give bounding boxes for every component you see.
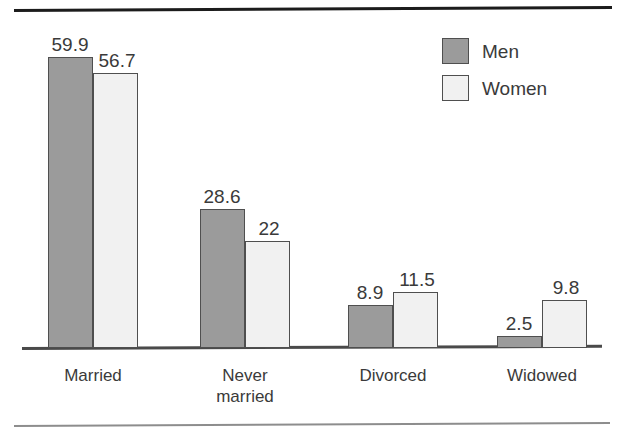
bar-women-never-married[interactable] [245, 241, 290, 348]
value-label-women-never-married: 22 [240, 219, 298, 238]
chart-figure: 59.9 56.7 28.6 22 8.9 11.5 2.5 9.8 Marri… [0, 0, 626, 436]
chart-legend: Men Women [442, 38, 547, 112]
bar-men-married[interactable] [48, 57, 93, 348]
value-label-women-widowed: 9.8 [537, 278, 595, 297]
legend-swatch-women-icon [442, 75, 469, 101]
x-category-label-married: Married [33, 365, 153, 386]
bar-men-never-married[interactable] [200, 209, 245, 348]
bar-women-married[interactable] [93, 73, 138, 348]
x-category-label-never-married: Never married [185, 365, 305, 407]
bar-men-divorced[interactable] [348, 305, 393, 348]
legend-label-women: Women [482, 79, 547, 98]
x-category-label-widowed: Widowed [482, 365, 602, 386]
legend-label-men: Men [482, 42, 519, 61]
legend-item-women[interactable]: Women [442, 75, 547, 101]
value-label-men-widowed: 2.5 [490, 314, 548, 333]
x-category-label-divorced: Divorced [333, 365, 453, 386]
bar-women-divorced[interactable] [393, 292, 438, 348]
value-label-women-divorced: 11.5 [388, 270, 446, 289]
bar-men-widowed[interactable] [497, 336, 542, 348]
value-label-women-married: 56.7 [88, 51, 146, 70]
legend-swatch-men-icon [442, 38, 469, 64]
bar-women-widowed[interactable] [542, 300, 587, 348]
legend-item-men[interactable]: Men [442, 38, 547, 64]
value-label-men-never-married: 28.6 [193, 187, 251, 206]
